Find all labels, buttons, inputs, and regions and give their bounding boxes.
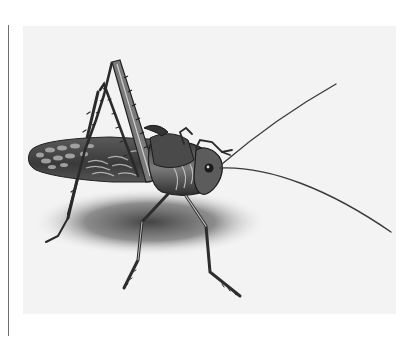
eye (205, 164, 214, 173)
katydid-illustration (23, 26, 396, 314)
head (194, 148, 222, 194)
left-margin-rule (8, 25, 9, 336)
illustration-panel: katydid (23, 26, 396, 314)
cast-shadow (32, 188, 268, 256)
